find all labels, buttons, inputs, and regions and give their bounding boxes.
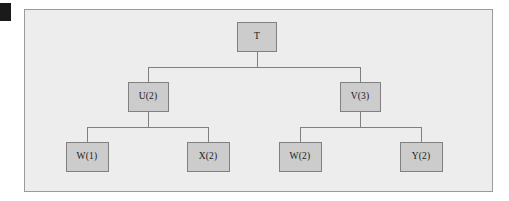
tree-node-t[interactable]: T [237,22,277,52]
tree-node-w1[interactable]: W(1) [66,142,109,172]
tree-node-v[interactable]: V(3) [340,82,381,112]
tree-node-w2[interactable]: W(2) [279,142,322,172]
figure-root: T U(2) V(3) W(1) X(2) W(2) Y(2) [0,0,509,201]
tree-node-x2[interactable]: X(2) [187,142,230,172]
tree-node-y2[interactable]: Y(2) [400,142,443,172]
tree-node-u[interactable]: U(2) [128,82,169,112]
